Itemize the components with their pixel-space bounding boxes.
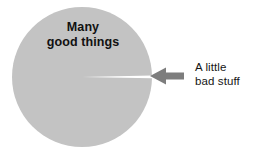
slice-label-line-1: Many	[22, 20, 144, 35]
callout-label-a-little-bad-stuff: A little bad stuff	[195, 60, 258, 88]
slice-label-many-good-things: Many good things	[22, 20, 144, 49]
callout-arrow-icon	[150, 68, 184, 85]
callout-label-line-2: bad stuff	[195, 74, 258, 88]
callout-label-line-1: A little	[195, 60, 258, 74]
diagram-canvas: Many good things A little bad stuff	[0, 0, 258, 155]
slice-label-line-2: good things	[22, 35, 144, 50]
